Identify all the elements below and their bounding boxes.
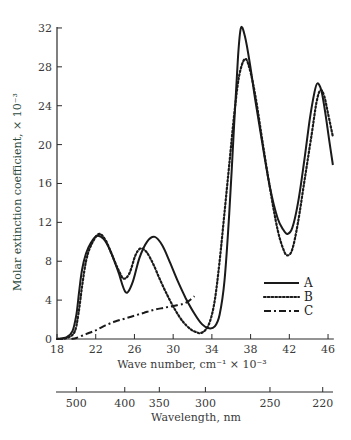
x-tick-label: 30 [166, 343, 180, 356]
series-lines [57, 27, 333, 339]
x-axis: 1822263034384246 [50, 334, 335, 356]
x-tick-label: 18 [50, 343, 64, 356]
x-axis-title: Wave number, cm⁻¹ × 10⁻³ [117, 358, 267, 371]
x-tick-label: 38 [244, 343, 258, 356]
x-tick-label: 34 [205, 343, 219, 356]
legend-label-c: C [304, 304, 313, 318]
y-tick-label: 4 [45, 294, 52, 307]
y-tick-label: 24 [38, 100, 52, 113]
legend: ABC [264, 276, 313, 318]
wavelength-axis: 500400350300250220 [56, 387, 333, 410]
wavelength-tick-label: 300 [195, 397, 216, 410]
wavelength-axis-title: Wavelength, nm [151, 411, 241, 424]
legend-label-a: A [303, 276, 313, 290]
x-tick-label: 42 [282, 343, 296, 356]
y-tick-label: 32 [38, 22, 52, 35]
series-c-line [72, 296, 195, 339]
legend-label-b: B [304, 290, 313, 304]
wavelength-tick-label: 220 [312, 397, 333, 410]
series-a-line [57, 27, 333, 339]
y-axis-title: Molar extinction coefficient, × 10⁻³ [11, 93, 24, 291]
x-tick-label: 22 [89, 343, 103, 356]
y-tick-label: 12 [38, 216, 52, 229]
x-tick-label: 46 [321, 343, 335, 356]
y-axis: 048121620242832 [38, 22, 62, 346]
y-tick-label: 28 [38, 61, 52, 74]
y-tick-label: 8 [45, 255, 52, 268]
y-tick-label: 16 [38, 177, 52, 190]
wavelength-tick-label: 250 [259, 397, 280, 410]
wavelength-tick-label: 350 [149, 397, 170, 410]
wavelength-tick-label: 500 [66, 397, 87, 410]
wavelength-tick-label: 400 [114, 397, 135, 410]
x-tick-label: 26 [127, 343, 141, 356]
absorption-spectrum-chart: 048121620242832 1822263034384246 5004003… [0, 0, 351, 440]
y-tick-label: 20 [38, 139, 52, 152]
